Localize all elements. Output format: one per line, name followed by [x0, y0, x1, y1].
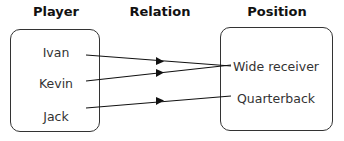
arrowhead-icon — [156, 97, 164, 105]
arrowhead-icon — [156, 57, 164, 65]
relation-arrows — [0, 0, 344, 141]
arrowhead-icon — [156, 69, 164, 77]
